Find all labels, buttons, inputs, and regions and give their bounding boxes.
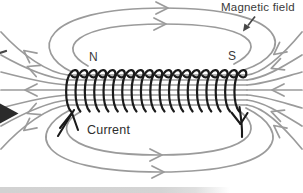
bottom-strip: [0, 187, 230, 193]
field-lines: [1, 8, 302, 172]
current-arrow-right: [232, 107, 248, 137]
south-pole-label: S: [228, 50, 236, 62]
field-lines-north-fan: [1, 32, 68, 149]
diagram-canvas: [0, 0, 303, 193]
left-edge-line-fragment: [0, 51, 6, 53]
current-label: Current: [87, 124, 130, 137]
field-line-loops-bottom: [46, 108, 273, 172]
magnetic-field-label: Magnetic field: [221, 2, 295, 14]
field-line-loops-top: [49, 8, 275, 72]
field-direction-chevron: [20, 118, 37, 135]
solenoid-field-diagram: Magnetic field N S Current: [0, 0, 303, 193]
north-pole-label: N: [89, 51, 98, 63]
